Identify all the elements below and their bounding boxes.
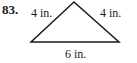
base-label: 6 in. xyxy=(65,47,86,62)
right-side-label: 4 in. xyxy=(100,6,121,21)
left-side-label: 4 in. xyxy=(31,6,52,21)
